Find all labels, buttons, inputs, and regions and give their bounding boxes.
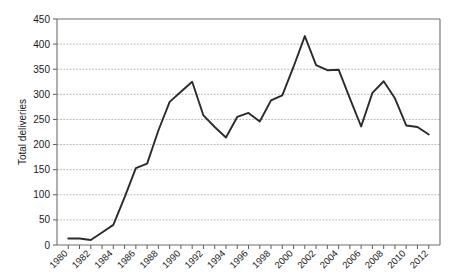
x-tick-label-2012: 2012 [407,248,430,271]
y-tick-label-100: 100 [33,189,50,200]
y-tick-label-150: 150 [33,164,50,175]
x-tick-label-2002: 2002 [295,248,318,271]
chart-canvas: 050100150200250300350400450 198019821984… [0,0,459,278]
x-tick-label-1984: 1984 [92,248,115,271]
y-tick-label-300: 300 [33,89,50,100]
y-tick-marks [53,19,57,245]
x-tick-label-1994: 1994 [205,248,228,271]
x-tick-label-2006: 2006 [340,248,363,271]
x-tick-marks [68,245,428,249]
y-tick-label-50: 50 [39,214,51,225]
line-chart-figure: 050100150200250300350400450 198019821984… [0,0,459,278]
x-tick-label-2010: 2010 [385,248,408,271]
x-tick-label-1996: 1996 [227,248,250,271]
x-tick-label-1988: 1988 [137,248,160,271]
y-axis-title: Total deliveries [17,99,28,165]
x-tick-label-1980: 1980 [47,248,70,271]
x-tick-label-1992: 1992 [182,248,205,271]
x-tick-label-1990: 1990 [160,248,183,271]
x-tick-label-1998: 1998 [250,248,273,271]
plot-background [57,19,440,245]
y-tick-label-0: 0 [44,240,50,251]
x-tick-label-1982: 1982 [69,248,92,271]
x-tick-labels: 1980198219841986198819901992199419961998… [47,248,430,271]
y-tick-label-400: 400 [33,39,50,50]
y-tick-label-200: 200 [33,139,50,150]
y-tick-label-450: 450 [33,14,50,25]
y-tick-label-250: 250 [33,114,50,125]
x-tick-label-2000: 2000 [272,248,295,271]
x-tick-label-2008: 2008 [362,248,385,271]
x-tick-label-2004: 2004 [317,248,340,271]
y-tick-label-350: 350 [33,64,50,75]
x-tick-label-1986: 1986 [115,248,138,271]
y-tick-labels: 050100150200250300350400450 [33,14,50,251]
